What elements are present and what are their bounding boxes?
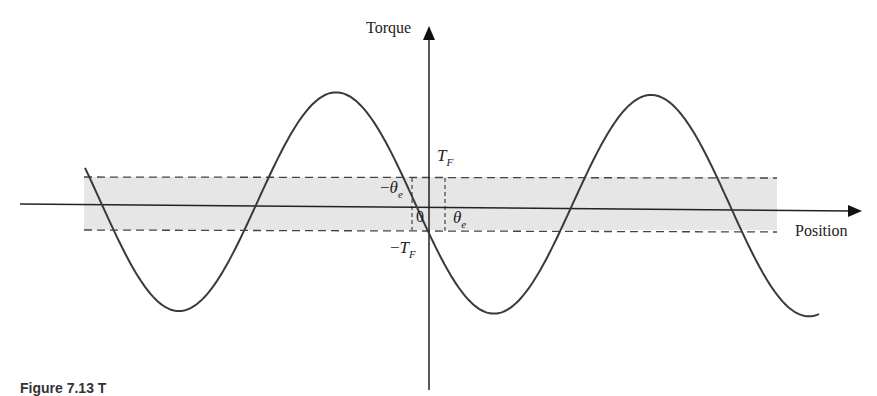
- neg-theta-label: −θe: [380, 178, 403, 198]
- tf-negative-label: −TF: [390, 238, 416, 258]
- origin-label: 0: [416, 208, 424, 226]
- x-axis-label: Position: [795, 222, 847, 240]
- figure-caption: Figure 7.13 T: [20, 380, 106, 396]
- tf-positive-label: TF: [437, 146, 453, 166]
- band-lower-dashed-line: [84, 230, 777, 232]
- pos-theta-label: θe: [453, 208, 466, 228]
- y-axis-arrow-icon: [423, 26, 435, 40]
- y-axis-label: Torque: [366, 19, 411, 37]
- x-axis-arrow-icon: [848, 205, 862, 217]
- friction-band: [84, 177, 777, 230]
